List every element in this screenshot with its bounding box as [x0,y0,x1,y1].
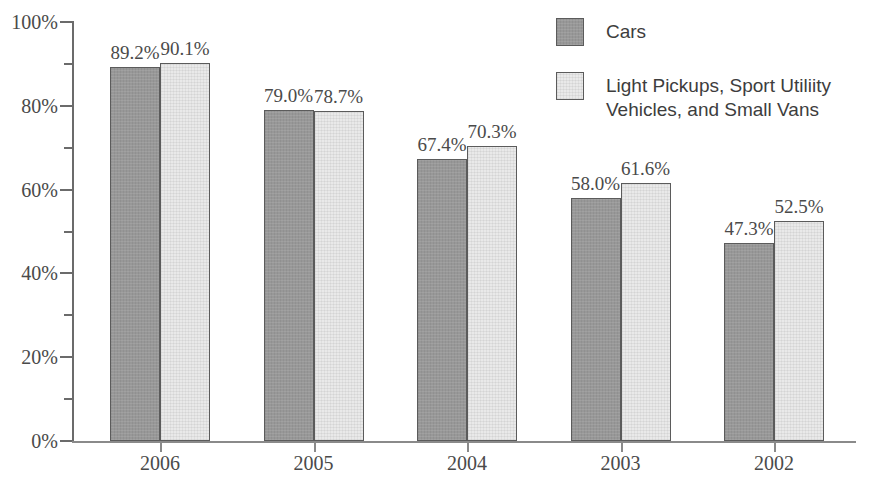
bar-light_trucks-2006 [160,63,210,441]
x-axis-label-2005: 2005 [294,452,334,475]
bar-value-label-light_trucks-2005: 78.7% [314,87,363,106]
x-axis-label-2003: 2003 [601,452,641,475]
bar-light_trucks-2005 [314,111,364,441]
y-axis-labels: 0%20%40%60%80%100% [0,0,58,489]
y-axis-label: 80% [2,96,58,116]
bar-light_trucks-2004 [467,146,517,441]
x-axis-label-2002: 2002 [754,452,794,475]
legend-label-light-trucks-line-2: Vehicles, and Small Vans [606,99,819,120]
legend-swatch-cars-icon [556,18,584,46]
bar-cars-2003 [571,198,621,441]
bar-value-label-light_trucks-2002: 52.5% [774,197,823,216]
y-axis-label: 20% [2,347,58,367]
legend-label-light-trucks-line-1: Light Pickups, Sport Utiliity [606,75,831,96]
bar-light_trucks-2002 [774,221,824,441]
legend-item-light-trucks: Light Pickups, Sport Utiliity Vehicles, … [556,72,866,122]
x-axis-line [72,441,856,443]
bar-value-label-light_trucks-2004: 70.3% [467,122,516,141]
bar-light_trucks-2003 [621,183,671,441]
bar-cars-2005 [264,110,314,441]
x-axis-tick [160,441,162,452]
bar-value-label-light_trucks-2006: 90.1% [160,39,209,58]
legend-label-cars: Cars [606,20,646,44]
bar-value-label-light_trucks-2003: 61.6% [621,159,670,178]
bar-cars-2004 [417,159,467,441]
bar-value-label-cars-2002: 47.3% [724,219,773,238]
x-axis-label-2004: 2004 [447,452,487,475]
legend: Cars Light Pickups, Sport Utiliity Vehic… [556,18,866,148]
bar-value-label-cars-2006: 89.2% [110,43,159,62]
x-axis-tick [774,441,776,452]
legend-item-cars: Cars [556,18,866,46]
bar-chart: 0%20%40%60%80%100% 89.2%90.1%79.0%78.7%6… [0,0,880,489]
x-axis-label-2006: 2006 [140,452,180,475]
y-axis-label: 0% [2,431,58,451]
legend-swatch-light-trucks-icon [556,72,584,100]
x-axis-tick [467,441,469,452]
bar-value-label-cars-2004: 67.4% [417,135,466,154]
bar-cars-2006 [110,67,160,441]
y-axis-label: 100% [2,12,58,32]
bar-value-label-cars-2005: 79.0% [264,86,313,105]
bar-cars-2002 [724,243,774,441]
legend-label-light-trucks: Light Pickups, Sport Utiliity Vehicles, … [606,74,831,122]
y-axis-label: 40% [2,263,58,283]
x-axis-tick [314,441,316,452]
x-axis-tick [621,441,623,452]
bar-value-label-cars-2003: 58.0% [571,174,620,193]
y-axis-label: 60% [2,180,58,200]
